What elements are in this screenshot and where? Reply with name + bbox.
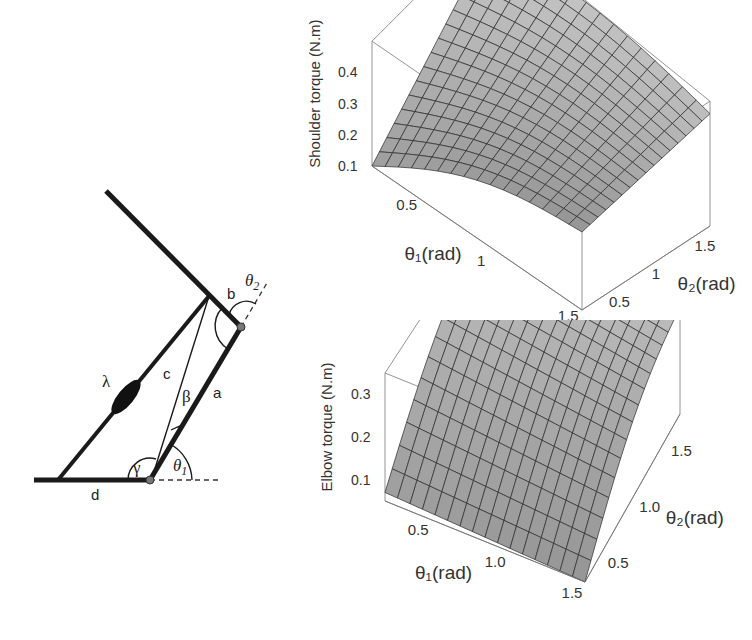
x-axis-label: θ₁(rad) [415,562,472,583]
z-axis-label: Shoulder torque (N.m) [306,19,323,167]
shoulder-torque-surface-plot: 0.511.50.511.50.10.20.30.4θ₁(rad)θ₂(rad)… [300,0,752,320]
z-tick-label: 0.4 [338,64,358,80]
label-d: d [91,486,99,503]
x-tick-label: 0.5 [408,521,429,538]
z-tick-label: 0.3 [351,386,371,402]
y-axis-label: θ₂(rad) [678,273,736,294]
label-c: c [163,365,171,382]
label-gamma: γ [132,458,141,477]
y-tick-label: 0.5 [608,554,629,571]
y-tick-label: 1 [652,265,660,282]
z-axis-label: Elbow torque (N.m) [318,362,335,491]
z-tick-label: 0.1 [338,158,358,174]
y-tick-label: 0.5 [609,293,630,310]
pivot-base [146,476,154,484]
elbow-torque-surface-plot: 0.51.01.50.51.01.50.10.20.3θ₁(rad)θ₂(rad… [300,320,752,640]
z-tick-label: 0.2 [338,127,358,143]
x-tick-label: 1 [477,252,485,269]
z-tick-label: 0.1 [351,472,371,488]
plot-group: 0.51.01.50.51.01.50.10.20.3θ₁(rad)θ₂(rad… [318,320,724,601]
x-tick-label: 1.0 [485,553,506,570]
y-tick-label: 1.5 [671,442,692,459]
link-upper [106,191,241,327]
box-edge-front [582,226,710,310]
label-beta: β [182,387,191,406]
x-axis-label: θ₁(rad) [405,243,462,264]
link-c [152,296,209,478]
muscle-belly [107,376,146,419]
label-a: a [213,384,222,401]
label-theta2: θ2 [245,271,259,293]
pivot-elbow [237,323,245,331]
z-tick-label: 0.3 [338,96,358,112]
label-b: b [227,285,235,302]
x-tick-label: 0.5 [396,196,417,213]
y-tick-label: 1.5 [694,237,715,254]
z-tick-label: 0.2 [351,429,371,445]
x-tick-label: 1.5 [562,584,583,601]
y-axis-label: θ₂(rad) [666,507,724,528]
x-tick-label: 1.5 [558,307,579,320]
y-tick-label: 1.0 [639,498,660,515]
plot-group: 0.511.50.511.50.10.20.30.4θ₁(rad)θ₂(rad)… [306,0,736,320]
linkage-diagram: d a b c λ β γ θ1 θ2 [0,0,300,640]
label-lambda: λ [102,372,111,391]
